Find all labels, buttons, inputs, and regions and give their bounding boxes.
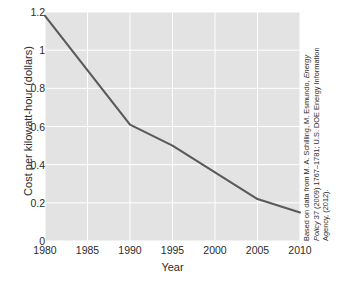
plot-area [45,12,300,241]
source-line-1-text: Based on data from M. A. Schilling, M. E… [302,78,311,241]
y-axis-tick-label: 1.2 [5,7,45,17]
data-line-series [45,12,300,241]
x-axis-tick-label: 1980 [23,245,67,256]
source-line-3: Agency, (2012). [321,12,331,241]
series-line [45,16,300,213]
source-citation-note: Based on data from M. A. Schilling, M. E… [302,12,348,241]
line-chart-figure: 00.20.40.60.811.2 1980198519901995200020… [0,0,349,284]
source-line-1: Based on data from M. A. Schilling, M. E… [302,12,312,241]
x-axis-tick-label: 1995 [151,245,195,256]
x-axis-title: Year [45,261,300,273]
x-axis-tick-label: 1990 [108,245,152,256]
x-axis-tick-label: 2005 [236,245,280,256]
source-line-2-journal: Policy [312,221,321,241]
source-line-1-journal: Energy [302,55,311,78]
x-axis-tick-label: 2000 [193,245,237,256]
x-axis-tick-label: 1985 [66,245,110,256]
source-line-2-text: 37 (2009) 1767–1781; U.S. DOE Energy Inf… [312,48,321,222]
x-axis-tick-label: 2010 [278,245,322,256]
y-axis-title: Cost per kilowatt-hour (dollars) [22,31,34,211]
source-line-2: Policy 37 (2009) 1767–1781; U.S. DOE Ene… [312,12,322,241]
